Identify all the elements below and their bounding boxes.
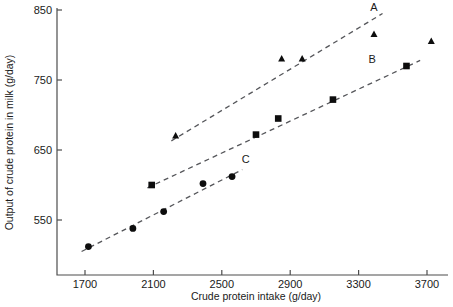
- trend-lines: [82, 14, 421, 252]
- plot-canvas: 170021002500290033003700 550650750850 AB…: [0, 0, 453, 307]
- x-axis-ticks: 170021002500290033003700: [73, 270, 439, 290]
- y-tick-label: 750: [34, 74, 52, 86]
- scatter-chart: 170021002500290033003700 550650750850 AB…: [0, 0, 453, 307]
- series-label-c: C: [242, 153, 250, 165]
- axis-spines: [57, 8, 448, 275]
- data-point-c: [85, 243, 92, 250]
- data-point-b: [275, 115, 282, 122]
- data-point-c: [160, 208, 167, 215]
- series-labels: ABC: [242, 1, 379, 165]
- y-axis-title: Output of crude protein in milk (g/day): [3, 55, 15, 231]
- data-point-a: [278, 55, 285, 61]
- x-tick-label: 2900: [278, 278, 302, 290]
- y-tick-label: 650: [34, 144, 52, 156]
- x-tick-label: 1700: [73, 278, 97, 290]
- data-point-c: [229, 173, 236, 180]
- data-point-a: [299, 55, 306, 61]
- data-markers: [85, 31, 435, 250]
- data-point-b: [403, 63, 410, 70]
- y-tick-label: 850: [34, 4, 52, 16]
- data-point-a: [428, 38, 435, 44]
- data-point-a: [370, 31, 377, 37]
- y-tick-label: 550: [34, 214, 52, 226]
- x-tick-label: 2500: [210, 278, 234, 290]
- x-tick-label: 2100: [141, 278, 165, 290]
- data-point-a: [172, 132, 179, 138]
- x-tick-label: 3300: [346, 278, 370, 290]
- data-point-c: [129, 225, 136, 232]
- data-point-b: [253, 131, 260, 138]
- trend-line-b: [147, 60, 420, 187]
- data-point-b: [330, 96, 337, 103]
- series-label-a: A: [370, 1, 378, 13]
- series-label-b: B: [369, 53, 376, 65]
- data-point-c: [200, 180, 207, 187]
- y-axis-ticks: 550650750850: [34, 4, 62, 226]
- x-tick-label: 3700: [415, 278, 439, 290]
- data-point-b: [148, 182, 155, 189]
- x-axis-title: Crude protein intake (g/day): [191, 290, 321, 302]
